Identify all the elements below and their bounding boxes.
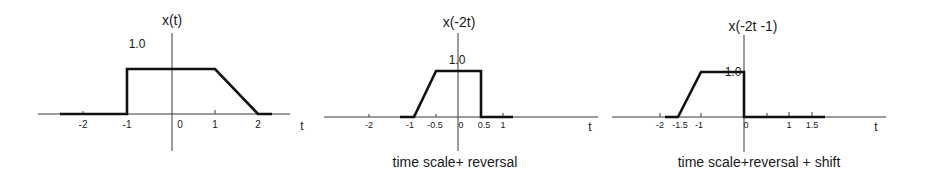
amplitude-label: 1.0 [725, 65, 742, 79]
tick-label: 1 [500, 120, 505, 130]
tick-label: 1 [786, 120, 791, 130]
signal-x-t [60, 69, 272, 114]
tick-label: -1.5 [672, 120, 688, 130]
panel-title: x(-2t -1) [729, 18, 778, 34]
tick-label: -2 [79, 119, 88, 130]
tick-label: 0 [177, 119, 183, 130]
panel-caption: time scale+ reversal [393, 154, 518, 170]
signal-x-neg2t [400, 71, 513, 117]
tick-label: -1 [406, 120, 414, 130]
signal-x-neg2t-minus1 [665, 72, 825, 117]
tick-label: -1 [695, 120, 703, 130]
panel-x-t: x(t) 1.0 -2 -1 0 1 2 t [38, 12, 304, 151]
t-axis-label: t [300, 119, 304, 133]
tick-label: -2 [656, 120, 664, 130]
tick-label: -1 [123, 119, 132, 130]
t-axis-label: t [874, 120, 878, 134]
amplitude-label: 1.0 [449, 53, 466, 67]
tick-label: 0 [458, 120, 463, 130]
amplitude-label: 1.0 [129, 37, 146, 51]
diagram-canvas: x(t) 1.0 -2 -1 0 1 2 t x(-2t) 1.0 -2 -1 … [0, 0, 925, 184]
tick-label: 0 [743, 120, 748, 130]
panel-title: x(t) [162, 12, 182, 28]
panel-x-neg2t: x(-2t) 1.0 -2 -1 -0.5 0 0.5 1 t time sca… [324, 14, 598, 170]
panel-x-neg2t-minus1: x(-2t -1) 1.0 -2 -1.5 -1 0 1 1.5 t time … [612, 18, 886, 170]
tick-label: 1.5 [806, 120, 819, 130]
signal-transform-diagram: x(t) 1.0 -2 -1 0 1 2 t x(-2t) 1.0 -2 -1 … [0, 0, 925, 184]
tick-label: 1 [212, 119, 218, 130]
tick-label: -0.5 [427, 120, 443, 130]
t-axis-label: t [588, 120, 592, 134]
tick-label: 2 [255, 119, 261, 130]
panel-title: x(-2t) [443, 14, 476, 30]
tick-label: 0.5 [478, 120, 491, 130]
tick-label: -2 [365, 120, 373, 130]
panel-caption: time scale+reversal + shift [678, 154, 841, 170]
